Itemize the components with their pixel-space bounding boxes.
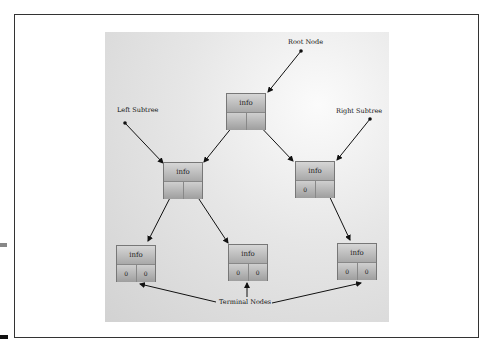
terminal-nodes-label: Terminal Nodes [219, 298, 271, 306]
left-pointer: 0 [229, 264, 248, 281]
tree-node-leaf: info 00 [116, 245, 156, 282]
tree-node-left: info [163, 162, 203, 199]
root-node-label: Root Node [288, 38, 323, 46]
right-pointer [183, 182, 203, 199]
node-info: info [164, 163, 202, 182]
left-pointer: 0 [296, 181, 315, 198]
right-pointer [246, 113, 266, 130]
tree-node-leaf: info 00 [337, 243, 377, 280]
right-subtree-label: Right Subtree [336, 107, 382, 115]
left-subtree-label: Left Subtree [117, 106, 158, 114]
left-pointer [164, 182, 183, 199]
left-pointer: 0 [338, 263, 357, 280]
right-pointer: 0 [357, 263, 377, 280]
right-pointer: 0 [248, 264, 268, 281]
tree-node-right: info 0 [295, 161, 335, 198]
right-pointer: 0 [136, 265, 156, 282]
left-pointer [227, 113, 246, 130]
node-info: info [229, 245, 267, 264]
tree-node-leaf: info 00 [228, 244, 268, 281]
node-info: info [227, 94, 265, 113]
node-info: info [338, 244, 376, 263]
left-pointer: 0 [117, 265, 136, 282]
node-info: info [117, 246, 155, 265]
tree-node-root: info [226, 93, 266, 130]
node-info: info [296, 162, 334, 181]
right-pointer [315, 181, 335, 198]
